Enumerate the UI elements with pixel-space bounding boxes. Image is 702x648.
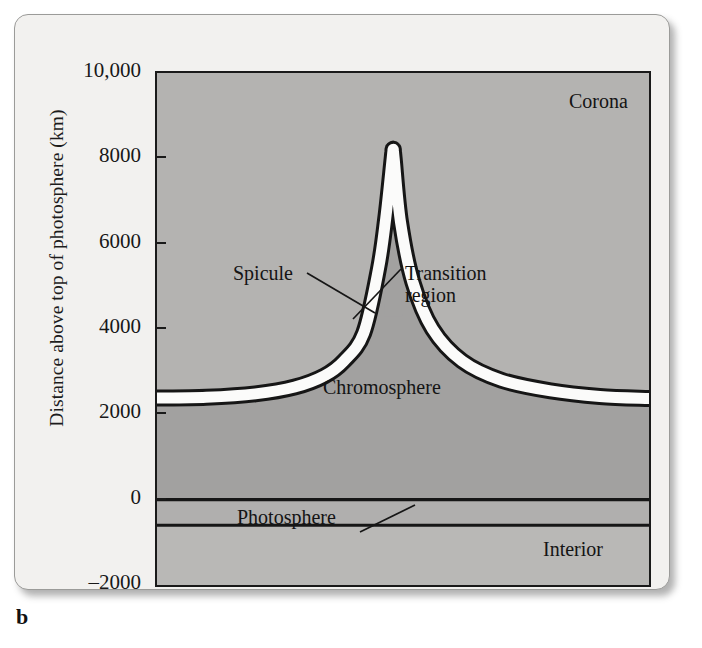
y-tick-label-5: 0 [131, 487, 142, 508]
plot-area: Corona Chromosphere Interior Photosphere… [155, 71, 651, 587]
panel-letter: b [16, 604, 28, 630]
corona-label: Corona [569, 91, 628, 113]
interior-label: Interior [543, 539, 603, 561]
chromosphere-label: Chromosphere [323, 377, 441, 399]
photosphere-region [157, 500, 649, 526]
photosphere-label: Photosphere [237, 507, 336, 529]
y-tick-mark-1 [155, 156, 166, 158]
solar-atmosphere-drawing [157, 73, 649, 585]
y-tick-mark-5 [155, 498, 166, 500]
y-tick-mark-2 [155, 242, 166, 244]
y-tick-label-3: 4000 [99, 316, 141, 337]
y-tick-label-0: 10,000 [83, 60, 141, 81]
transition-region-label-line1: Transition [405, 262, 487, 284]
y-tick-label-4: 2000 [99, 401, 141, 422]
y-axis-tick-labels: 10,00080006000400020000–2000 [15, 15, 141, 591]
y-tick-label-6: –2000 [89, 572, 142, 593]
y-tick-label-2: 6000 [99, 231, 141, 252]
y-tick-label-1: 8000 [99, 145, 141, 166]
y-tick-mark-3 [155, 327, 166, 329]
y-tick-mark-4 [155, 412, 166, 414]
figure-card: Distance above top of photosphere (km) 1… [14, 14, 670, 590]
transition-region-label: Transition region [405, 263, 487, 306]
spicule-label: Spicule [233, 263, 293, 285]
transition-region-label-line2: region [405, 284, 456, 306]
